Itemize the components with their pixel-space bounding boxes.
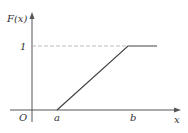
cdf-curve bbox=[57, 46, 157, 110]
cdf-chart: F(x) 1 O a b x bbox=[0, 0, 188, 133]
x-axis-label: x bbox=[174, 114, 180, 125]
origin-label: O bbox=[19, 112, 27, 123]
tick-label-b: b bbox=[130, 112, 136, 123]
tick-label-a: a bbox=[54, 112, 60, 123]
y-axis-arrow-icon bbox=[30, 12, 35, 19]
y-axis-label: F(x) bbox=[6, 13, 27, 24]
level-one-label: 1 bbox=[20, 41, 26, 52]
x-axis-arrow-icon bbox=[174, 108, 181, 113]
